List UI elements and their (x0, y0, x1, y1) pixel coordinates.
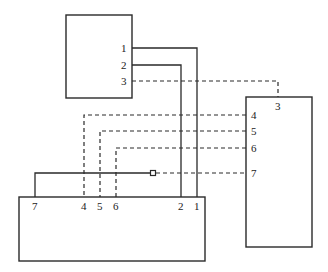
connector-icon (151, 171, 156, 176)
bottom-pin-4-label: 4 (81, 200, 87, 212)
top-pin-3-label: 3 (121, 75, 127, 87)
right-pin-4-label: 4 (251, 109, 257, 121)
wire-3 (132, 81, 278, 97)
wire-1 (132, 48, 197, 197)
right-pin-3-label: 3 (275, 100, 281, 112)
top-pin-2-label: 2 (121, 59, 127, 71)
right-pin-7-label: 7 (251, 167, 257, 179)
right-pin-6-label: 6 (251, 142, 257, 154)
top-pin-1-label: 1 (121, 42, 127, 54)
wiring-diagram: 1 2 3 3 4 5 6 7 7 4 5 6 2 1 (0, 0, 328, 272)
bottom-pin-7-label: 7 (32, 200, 38, 212)
wire-4 (84, 115, 246, 197)
wire-5 (100, 131, 246, 197)
bottom-pin-5-label: 5 (97, 200, 103, 212)
wire-7-solid (35, 173, 151, 197)
bottom-pin-1-label: 1 (194, 200, 200, 212)
right-pin-5-label: 5 (251, 125, 257, 137)
bottom-pin-6-label: 6 (113, 200, 119, 212)
bottom-pin-2-label: 2 (178, 200, 184, 212)
